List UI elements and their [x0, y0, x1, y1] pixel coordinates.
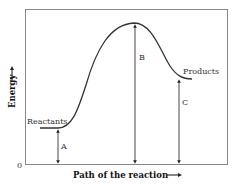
plot-frame	[26, 10, 228, 165]
label-b: B	[139, 53, 145, 62]
label-c: C	[182, 98, 188, 107]
origin-label: 0	[17, 161, 22, 170]
energy-diagram: Reactants Products A B C 0 Path of the r…	[0, 0, 237, 184]
label-reactants: Reactants	[27, 117, 67, 126]
label-products: Products	[183, 67, 219, 76]
label-a: A	[60, 142, 67, 151]
x-axis-label: Path of the reaction	[73, 170, 168, 180]
